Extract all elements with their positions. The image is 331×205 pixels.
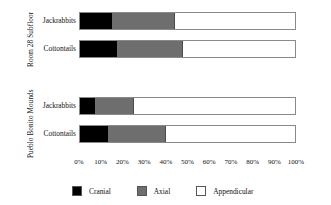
bar-segment-cranial [80,13,112,29]
x-axis-tick-label: 10% [94,158,107,166]
x-axis-tick-label: 50% [181,158,194,166]
legend-item: Appendicular [196,186,253,196]
bar-segment-appendicular [134,98,295,114]
bar-segment-appendicular [183,41,295,57]
bar-segment-cranial [80,98,95,114]
bar-segment-axial [108,126,166,142]
x-axis-tick-label: 0% [74,158,83,166]
legend-swatch-appendicular [196,186,206,196]
x-axis-tick-label: 20% [116,158,129,166]
row-label-cottontails: Cottontails [6,40,76,58]
x-axis-tick-label: 100% [288,158,304,166]
x-axis-tick-label: 80% [246,158,259,166]
legend-swatch-cranial [72,186,82,196]
row-label-jackrabbits: Jackrabbits [6,97,76,115]
chart-group-room-28-subfloor: Room 28 Subfloor Jackrabbits Cottontails [0,8,331,70]
stacked-bar [79,97,296,115]
bar-row: Cottontails [0,125,331,143]
x-axis-tick-label: 40% [159,158,172,166]
row-label-cottontails: Cottontails [6,125,76,143]
legend-item: Axial [137,186,170,196]
bar-segment-appendicular [166,126,295,142]
bar-segment-appendicular [175,13,295,29]
bar-row: Jackrabbits [0,12,331,30]
bar-segment-cranial [80,126,108,142]
legend-item: Cranial [72,186,111,196]
x-axis-tick-label: 90% [268,158,281,166]
legend-label: Appendicular [213,187,253,196]
bar-segment-cranial [80,41,117,57]
stacked-bar [79,40,296,58]
legend-label: Axial [154,187,170,196]
x-axis: 0%10%20%30%40%50%60%70%80%90%100% [79,158,296,170]
chart-legend: CranialAxialAppendicular [72,183,312,199]
x-axis-tick-label: 60% [203,158,216,166]
stacked-bar [79,12,296,30]
row-label-jackrabbits: Jackrabbits [6,12,76,30]
bar-segment-axial [112,13,174,29]
stacked-bar-chart: Room 28 Subfloor Jackrabbits Cottontails… [0,0,331,205]
x-axis-tick-label: 70% [224,158,237,166]
legend-swatch-axial [137,186,147,196]
stacked-bar [79,125,296,143]
legend-label: Cranial [89,187,111,196]
bar-segment-axial [117,41,184,57]
x-axis-tick-label: 30% [138,158,151,166]
chart-group-pueblo-bonito-mounds: Pueblo Bonito Mounds Jackrabbits Cottont… [0,93,331,155]
bar-segment-axial [95,98,134,114]
bar-row: Cottontails [0,40,331,58]
bar-row: Jackrabbits [0,97,331,115]
